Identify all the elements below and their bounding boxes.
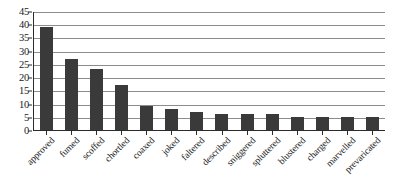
bars-container (34, 12, 385, 130)
bar (291, 117, 304, 130)
x-axis: approvedfumedscoffedchortledcoaxedjokedf… (33, 131, 385, 192)
bar (115, 85, 128, 130)
y-tick-mark (28, 117, 32, 118)
bar (215, 114, 228, 130)
x-tick-label: blustered (277, 136, 308, 167)
bar (90, 69, 103, 130)
bar (65, 59, 78, 130)
bar (366, 117, 379, 130)
bar (190, 112, 203, 131)
y-tick-mark (28, 38, 32, 39)
bar (266, 114, 279, 130)
y-tick-mark (28, 104, 32, 105)
x-tick-label: fumed (58, 136, 82, 160)
x-tick-label: chortled (104, 136, 132, 164)
y-tick-mark (28, 131, 32, 132)
y-tick-mark (28, 51, 32, 52)
y-tick-mark (28, 78, 32, 79)
x-tick-label: scoffed (81, 136, 107, 162)
x-tick-label: approved (25, 136, 56, 167)
bar (241, 114, 254, 130)
x-tick-label: coaxed (132, 136, 157, 161)
bar (316, 117, 329, 130)
y-tick-mark (28, 64, 32, 65)
y-tick-mark (28, 12, 32, 13)
y-axis: 051015202530354045 (0, 12, 29, 131)
y-tick-mark (28, 91, 32, 92)
bar (165, 109, 178, 130)
bar (341, 117, 354, 130)
bar-chart-figure: 051015202530354045 approvedfumedscoffedc… (0, 0, 396, 192)
plot-area (33, 12, 385, 131)
bar (140, 106, 153, 130)
y-tick-mark (28, 25, 32, 26)
bar (40, 27, 53, 130)
